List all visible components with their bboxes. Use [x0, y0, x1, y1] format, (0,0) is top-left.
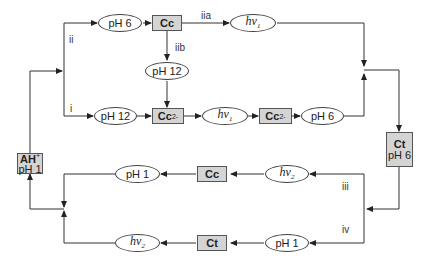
top-cc-box: Cc: [152, 15, 182, 31]
mid-ph12-ellipse: pH 12: [145, 62, 189, 80]
path-label-iia: iia: [201, 10, 211, 21]
ah-sup: +: [36, 152, 40, 159]
bot-ph6-label: pH 6: [311, 111, 334, 122]
top-ph6-label: pH 6: [108, 18, 131, 29]
cc2-a-sup: 2-: [172, 113, 178, 120]
top-hv1-label: hν1: [246, 15, 261, 30]
cc2-a-label: Cc: [158, 111, 172, 122]
lowest-ct-box: Ct: [197, 235, 227, 251]
path-label-i: i: [70, 103, 72, 114]
low-cc-box: Cc: [197, 166, 227, 182]
lowest-ph1-label: pH 1: [275, 238, 298, 249]
low-cc-label: Cc: [205, 169, 219, 180]
connector-lines: [0, 0, 426, 261]
cc2-b-sup: 2-: [279, 113, 285, 120]
lowest-ct-label: Ct: [206, 238, 218, 249]
bot-cc2-box-a: Cc2-: [152, 108, 184, 124]
top-hv1-ellipse: hν1: [230, 14, 276, 32]
bot-cc2-box-b: Cc2-: [259, 108, 292, 124]
path-label-ii: ii: [69, 34, 73, 45]
bot-hv1-ellipse: hν1: [202, 107, 248, 125]
lowest-hv2-label: hν2: [130, 235, 145, 250]
low-hv2-label: hν2: [280, 166, 295, 181]
ct-ph6-box: Ct pH 6: [386, 132, 413, 167]
path-label-iii: iii: [342, 181, 349, 192]
bot-ph12-label: pH 12: [101, 111, 130, 122]
ct-label: Ct: [394, 139, 406, 150]
low-ph1-ellipse: pH 1: [115, 165, 160, 183]
bot-ph6-ellipse: pH 6: [301, 107, 344, 125]
top-ph6-ellipse: pH 6: [98, 14, 142, 32]
mid-ph12-label: pH 12: [152, 66, 181, 77]
top-cc-label: Cc: [160, 18, 174, 29]
bot-ph12-ellipse: pH 12: [94, 107, 137, 125]
ah-plus-box: AH+ pH 1: [17, 153, 43, 174]
bot-hv1-label: hν1: [218, 108, 233, 123]
ah-ph-label: pH 1: [18, 164, 41, 175]
path-label-iib: iib: [175, 42, 185, 53]
ct-ph-label: pH 6: [388, 150, 411, 161]
path-label-iv: iv: [342, 224, 349, 235]
low-hv2-ellipse: hν2: [265, 165, 309, 183]
cc2-b-label: Cc: [265, 111, 279, 122]
lowest-ph1-ellipse: pH 1: [265, 234, 309, 252]
low-ph1-label: pH 1: [126, 169, 149, 180]
lowest-hv2-ellipse: hν2: [115, 234, 160, 252]
